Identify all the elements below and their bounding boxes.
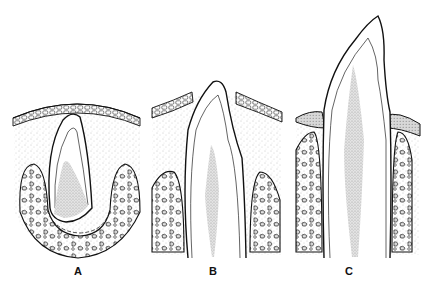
panel-label-c: C — [345, 265, 353, 277]
figure-caption — [2, 286, 432, 293]
panel-c-drawing — [296, 16, 420, 258]
panel-c-bone-left — [296, 132, 322, 252]
panel-c-bone-right — [392, 132, 412, 252]
panel-b-bone-left — [152, 171, 184, 252]
panel-label-b: B — [209, 265, 217, 277]
tooth-eruption-illustration — [0, 0, 433, 293]
panel-b-drawing — [152, 81, 282, 258]
panel-a-drawing — [13, 104, 140, 258]
panel-label-a: A — [74, 265, 82, 277]
